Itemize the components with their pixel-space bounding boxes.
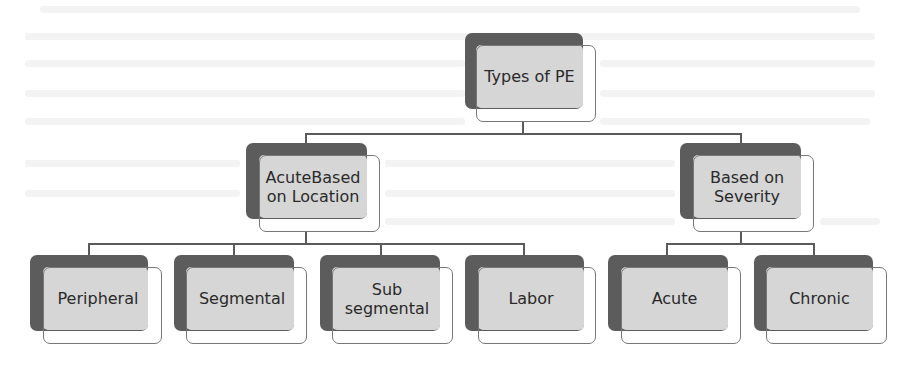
node-label: Chronic <box>766 267 873 330</box>
node-label: Sub segmental <box>332 267 442 330</box>
connector-location-horizontal <box>88 243 524 245</box>
connector-to-subsegmental <box>380 243 382 255</box>
node-label: AcuteBased on Location <box>259 155 367 218</box>
connector-to-peripheral <box>88 243 90 255</box>
connector-to-segmental <box>233 243 235 255</box>
connector-level1-horizontal <box>305 133 741 135</box>
connector-severity-horizontal <box>666 243 814 245</box>
connector-to-chronic <box>813 243 815 255</box>
node-label: Peripheral <box>43 267 153 330</box>
connector-to-labor <box>523 243 525 255</box>
node-label: Acute <box>621 267 728 330</box>
connector-to-acute <box>666 243 668 255</box>
node-label: Types of PE <box>476 45 583 108</box>
node-label: Labor <box>478 267 584 330</box>
node-label: Based on Severity <box>693 155 801 218</box>
node-label: Segmental <box>186 267 298 330</box>
